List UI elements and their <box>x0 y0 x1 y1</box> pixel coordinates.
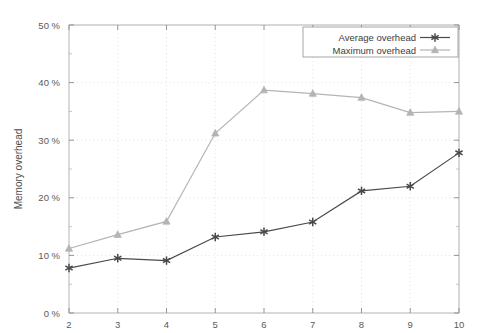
series-maximum-overhead <box>66 86 463 251</box>
ytick-label: 40 % <box>38 77 60 88</box>
xtick-label: 2 <box>66 319 71 330</box>
xtick-label: 8 <box>359 319 364 330</box>
xtick-label: 9 <box>408 319 413 330</box>
series-line <box>69 153 459 268</box>
xtick-label: 6 <box>261 319 266 330</box>
xtick-label: 3 <box>115 319 120 330</box>
xtick-label: 5 <box>213 319 218 330</box>
chart-canvas: 0 %10 %20 %30 %40 %50 %2345678910Memory … <box>0 0 486 333</box>
memory-overhead-chart: 0 %10 %20 %30 %40 %50 %2345678910Memory … <box>0 0 486 333</box>
marker-asterisk <box>455 149 462 157</box>
xtick-label: 10 <box>454 319 465 330</box>
ytick-label: 50 % <box>38 20 60 31</box>
xtick-label: 7 <box>310 319 315 330</box>
marker-triangle <box>163 218 170 225</box>
marker-triangle <box>261 86 268 93</box>
ytick-label: 10 % <box>38 250 60 261</box>
tick-labels: 0 %10 %20 %30 %40 %50 %2345678910 <box>38 20 464 331</box>
ytick-label: 0 % <box>44 308 61 319</box>
gridlines <box>69 25 459 313</box>
legend: Average overheadMaximum overhead <box>303 27 458 57</box>
y-axis-title: Memory overhead <box>13 129 24 210</box>
ytick-label: 30 % <box>38 135 60 146</box>
legend-label-maximum-overhead: Maximum overhead <box>333 45 416 56</box>
legend-label-average-overhead: Average overhead <box>339 32 416 43</box>
xtick-label: 4 <box>164 319 169 330</box>
ytick-label: 20 % <box>38 192 60 203</box>
